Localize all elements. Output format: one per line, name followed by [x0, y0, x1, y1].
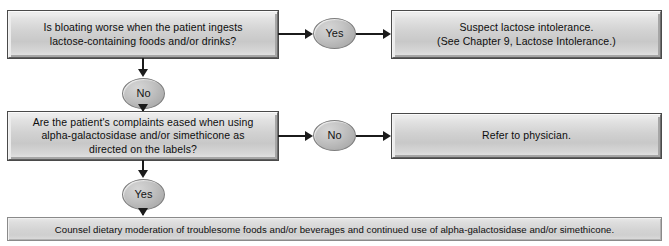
outcome1-line-2: (See Chapter 9, Lactose Intolerance.) [437, 35, 616, 49]
ellipse-no-row1-text: No [136, 88, 150, 99]
arrowhead-to-banner [138, 208, 148, 216]
arrowhead-to-outcome2 [383, 131, 391, 141]
ellipse-yes-row2-text: Yes [135, 189, 153, 200]
arrowhead-to-yes-ellipse-row2 [138, 170, 148, 178]
connector-no-to-outcome2 [356, 135, 384, 137]
outcome-banner-counsel-dietary-moderation: Counsel dietary moderation of troublesom… [8, 218, 661, 240]
arrowhead-to-yes-ellipse [305, 29, 313, 39]
decision-box-alpha-galactosidase-question: Are the patient's complaints eased when … [8, 112, 278, 160]
connector-yes-to-outcome1 [356, 33, 384, 35]
outcome-box-suspect-lactose-intolerance: Suspect lactose intolerance. (See Chapte… [392, 11, 661, 58]
outcome2-line-1: Refer to physician. [482, 129, 571, 143]
connector-decision2-to-no [278, 135, 306, 137]
arrowhead-to-no-ellipse-row2 [305, 131, 313, 141]
decision2-line-3: directed on the labels? [33, 143, 254, 157]
outcome1-line-1: Suspect lactose intolerance. [437, 21, 616, 35]
flowchart-canvas: Is bloating worse when the patient inges… [0, 0, 669, 246]
label-ellipse-no-row2: No [313, 120, 356, 151]
ellipse-no-row2-text: No [327, 130, 341, 141]
decision2-line-1: Are the patient's complaints eased when … [33, 116, 254, 130]
decision2-line-2: alpha-galactosidase and/or simethicone a… [33, 129, 254, 143]
arrowhead-to-outcome1 [383, 29, 391, 39]
label-ellipse-yes-row2: Yes [122, 179, 165, 210]
arrowhead-to-decision2 [138, 104, 148, 112]
decision1-line-2: lactose-containing foods and/or drinks? [43, 35, 242, 49]
decision-box-lactose-question: Is bloating worse when the patient inges… [8, 11, 278, 58]
decision1-line-1: Is bloating worse when the patient inges… [43, 21, 242, 35]
ellipse-yes-row1-text: Yes [326, 28, 344, 39]
outcome-box-refer-to-physician: Refer to physician. [392, 114, 661, 158]
outcome3-line-1: Counsel dietary moderation of troublesom… [55, 224, 614, 235]
arrowhead-to-no-ellipse [138, 69, 148, 77]
label-ellipse-yes-row1: Yes [313, 18, 356, 49]
connector-decision1-to-yes [278, 33, 306, 35]
